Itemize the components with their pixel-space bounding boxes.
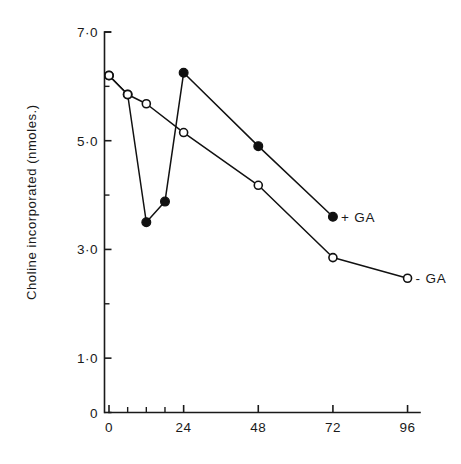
data-point-open [124,91,132,99]
x-axis-ticks [109,405,408,413]
x-tick-label: 72 [325,420,341,435]
data-point-open [254,181,262,189]
series-label-minus-ga: - GA [416,271,447,286]
y-tick-label: 1·0 [77,351,98,366]
y-tick-label: 3·0 [77,242,98,257]
data-point-open [180,129,188,137]
data-point-filled [142,218,151,227]
y-tick-label: 0 [90,406,98,421]
data-point-filled [161,197,170,206]
data-point-open [105,71,113,79]
series-line-plus-ga [109,73,333,222]
x-tick-label: 96 [400,420,416,435]
y-axis-title-group: Choline incorporated (nmoles.) [24,104,39,300]
series-line-minus-ga [109,75,408,278]
y-axis-title: Choline incorporated (nmoles.) [24,104,39,300]
x-tick-label: 0 [105,420,113,435]
chart-figure: Choline incorporated (nmoles.) 01·03·05·… [0,0,461,464]
y-tick-label: 7·0 [77,25,98,40]
series-lines [109,73,408,278]
x-tick-label: 48 [250,420,266,435]
data-point-filled [329,212,338,221]
x-axis-tick-labels: 024487296 [105,420,416,435]
data-point-open [329,254,337,262]
series-points [105,68,412,282]
data-point-open [142,100,150,108]
data-point-open [404,274,412,282]
data-point-filled [254,142,263,151]
y-tick-label: 5·0 [77,134,98,149]
y-axis-tick-labels: 01·03·05·07·0 [77,25,98,421]
series-label-plus-ga: + GA [341,210,375,225]
y-axis-ticks [105,32,112,413]
line-chart: Choline incorporated (nmoles.) 01·03·05·… [0,0,461,464]
x-tick-label: 24 [176,420,192,435]
data-point-filled [179,68,188,77]
